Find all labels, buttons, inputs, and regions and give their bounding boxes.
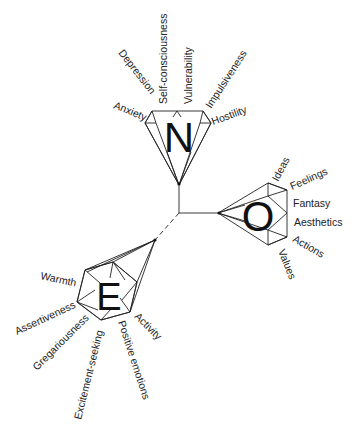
facet-label-impulsiveness: Impulsiveness [203, 48, 249, 110]
facet-label-vulnerability: Vulnerability [182, 46, 194, 104]
o-domain-letter: O [242, 193, 275, 240]
facet-label-excitement-seeking: Excitement-seeking [71, 329, 105, 421]
trunk-connectors [155, 185, 218, 240]
facet-label-self-consciousness: Self-consciousness [157, 14, 169, 104]
e-facet-labels: Warmth Assertiveness Gregariousness Exci… [13, 269, 165, 420]
facet-label-depression: Depression [116, 47, 158, 96]
n-domain-letter: N [164, 114, 194, 161]
facet-label-values: Values [276, 247, 299, 281]
facet-label-actions: Actions [291, 232, 327, 260]
e-connector-dashed [155, 213, 179, 240]
facet-label-aesthetics: Aesthetics [294, 216, 342, 228]
facet-label-ideas: Ideas [269, 155, 292, 183]
o-domain-node: O [217, 183, 287, 245]
e-domain-node: E [77, 238, 157, 320]
facet-label-anxiety: Anxiety [112, 99, 149, 123]
facet-label-feelings: Feelings [288, 165, 329, 192]
facet-label-hostility: Hostility [210, 103, 249, 127]
facet-label-warmth: Warmth [40, 269, 78, 288]
n-facet-labels: Anxiety Depression Self-consciousness Vu… [112, 14, 249, 127]
diagram-canvas: N Anxiety Depression Self-consciousness … [0, 0, 353, 432]
o-facet-labels: Ideas Feelings Fantasy Aesthetics Action… [269, 155, 342, 281]
n-domain-node: N [145, 111, 211, 186]
facet-label-fantasy: Fantasy [293, 197, 331, 209]
facet-label-activity: Activity [133, 310, 166, 343]
neo-diagram: N Anxiety Depression Self-consciousness … [0, 0, 353, 432]
e-domain-letter: E [96, 276, 121, 318]
